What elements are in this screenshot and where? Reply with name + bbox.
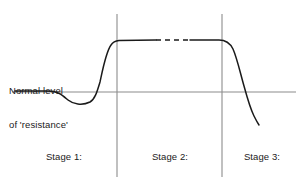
stage-2-subtitle-line-1: Resistance or xyxy=(120,185,220,187)
stage-1-label: Stage 1: Alarm xyxy=(14,129,114,187)
stage-1-title: Stage 1: xyxy=(14,151,114,162)
stage-3-subtitle: Exhaustion xyxy=(224,185,300,187)
stage-2-label: Stage 2: Resistance or adaptation xyxy=(120,129,220,187)
exhaustion-descent-curve xyxy=(190,40,259,125)
stage-3-title: Stage 3: xyxy=(224,151,300,162)
stage-1-subtitle: Alarm xyxy=(14,185,114,187)
gas-diagram-figure: Normal level of 'resistance' Stage 1: Al… xyxy=(0,0,303,187)
stage-2-title: Stage 2: xyxy=(120,151,220,162)
baseline-label-line-1: Normal level xyxy=(9,85,68,96)
stage-3-label: Stage 3: Exhaustion xyxy=(224,129,300,187)
